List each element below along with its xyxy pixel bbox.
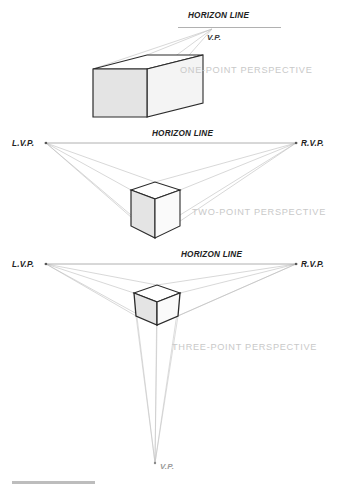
guide-line — [46, 143, 155, 182]
perspective-figure-svg: HORIZON LINE V.P. ONE-POINT PERSPECTIVE — [0, 0, 339, 490]
panel-three-point: L.V.P. R.V.P. HORIZON LINE THREE-POINT P… — [12, 250, 324, 471]
cube-right-face — [155, 190, 180, 238]
panel-one-point: HORIZON LINE V.P. ONE-POINT PERSPECTIVE — [93, 11, 312, 117]
perspective-diagram: HORIZON LINE V.P. ONE-POINT PERSPECTIVE — [0, 0, 339, 490]
vanishing-point-label-rvp-two-point: R.V.P. — [301, 139, 324, 148]
guide-line — [155, 325, 157, 463]
guide-line — [180, 143, 296, 190]
cube-three-point — [134, 285, 180, 325]
vanishing-point-dot-right — [295, 263, 297, 265]
panel-two-point: L.V.P. R.V.P. HORIZON LINE TWO-POINT PER… — [12, 129, 326, 238]
vanishing-point-label-rvp-three-point: R.V.P. — [301, 260, 324, 269]
caption-three-point: THREE-POINT PERSPECTIVE — [172, 342, 317, 352]
vanishing-point-label-lvp-three-point: L.V.P. — [12, 260, 34, 269]
horizon-line-label-three-point: HORIZON LINE — [181, 250, 242, 259]
guide-line — [147, 29, 212, 55]
horizon-line-label-one-point: HORIZON LINE — [188, 11, 249, 20]
cube-front-face — [93, 69, 147, 117]
vanishing-point-label-vp: V.P. — [207, 33, 221, 42]
caption-two-point: TWO-POINT PERSPECTIVE — [192, 207, 326, 217]
footer-rule — [12, 481, 95, 484]
horizon-line-label-two-point: HORIZON LINE — [152, 129, 213, 138]
guide-line — [136, 316, 155, 463]
caption-one-point: ONE-POINT PERSPECTIVE — [180, 65, 312, 75]
guide-line — [46, 264, 136, 316]
guide-line — [180, 143, 296, 215]
vanishing-point-dot-left — [45, 142, 47, 144]
guide-line — [46, 264, 134, 293]
guide-line — [155, 143, 296, 182]
guide-line — [155, 316, 178, 463]
vanishing-point-dot-left — [45, 263, 47, 265]
cube-two-point — [131, 182, 180, 238]
guide-line — [180, 264, 296, 293]
guide-line — [157, 264, 296, 285]
vanishing-point-dot-right — [295, 142, 297, 144]
cube-left-face — [131, 190, 155, 238]
vanishing-point-dot-bottom — [154, 462, 156, 464]
guide-line — [46, 264, 157, 285]
vanishing-point-label-lvp-two-point: L.V.P. — [12, 139, 34, 148]
guide-line — [46, 143, 131, 190]
vanishing-point-label-bottom: V.P. — [160, 462, 174, 471]
